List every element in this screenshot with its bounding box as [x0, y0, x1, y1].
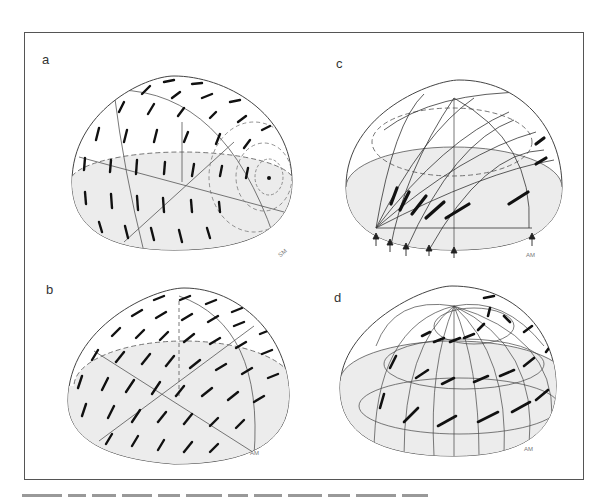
hemisphere-d-diagram	[304, 256, 584, 480]
hemisphere-a-diagram	[24, 32, 304, 256]
corner-label-b: AM	[250, 450, 259, 456]
corner-label-d: AM	[524, 446, 533, 452]
hemisphere-b-diagram	[24, 256, 304, 480]
hemisphere-c-diagram	[304, 32, 584, 256]
panel-b: b AM	[24, 256, 304, 480]
panel-a: a SM	[24, 32, 304, 256]
panel-c: c	[304, 32, 584, 256]
caption-cropped	[22, 494, 582, 501]
panel-d: d	[304, 256, 584, 480]
